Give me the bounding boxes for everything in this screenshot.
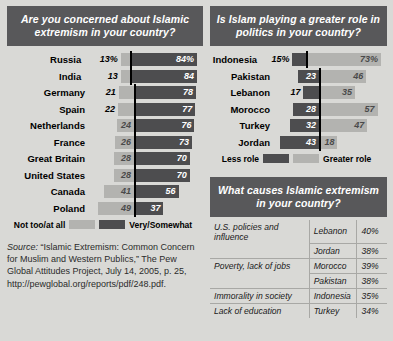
chart-role: Indonesia15%73%Pakistan2346Lebanon1735Mo… [210, 46, 387, 168]
table-row: Poverty, lack of jobsMorocco39% [210, 259, 387, 274]
chart-row: Germany2178 [9, 85, 197, 100]
bar-segment-left [292, 53, 306, 66]
country-label: Morocco [212, 104, 275, 115]
bar-value-left: 21 [103, 86, 119, 99]
bar-segment-right: 37 [134, 202, 163, 215]
bar-track: 2476 [90, 119, 197, 132]
cause-label: Lack of education [210, 304, 309, 319]
panel-title-role: Is Islam playing a greater role in polit… [210, 6, 387, 46]
chart-row: India1384 [9, 69, 197, 84]
cause-country: Indonesia [309, 289, 357, 304]
country-label: United States [9, 170, 90, 181]
bar-track: 13%84% [86, 53, 197, 66]
bar-segment-right: 73 [134, 136, 192, 149]
bar-segment-left [119, 86, 134, 99]
bar-value-left: 24 [118, 119, 134, 132]
chart-role-rows: Indonesia15%73%Pakistan2346Lebanon1735Mo… [212, 52, 381, 150]
zero-axis-line [134, 167, 136, 184]
zero-axis-line [134, 134, 136, 151]
cause-label [210, 244, 309, 259]
bar-segment-left: 24 [117, 119, 134, 132]
bar-value-right: 46 [350, 70, 366, 83]
chart-row: Indonesia15%73% [212, 52, 381, 67]
country-label: Spain [9, 104, 90, 115]
country-label: Germany [9, 87, 90, 98]
bar-track: 4937 [90, 202, 197, 215]
bar-segment-left: 32 [290, 119, 319, 132]
cause-label: Poverty, lack of jobs [210, 259, 309, 274]
country-label: Netherlands [9, 120, 90, 131]
bar-track: 2178 [90, 86, 197, 99]
country-label: Great Britain [9, 153, 90, 164]
table-row: U.S. policies and influenceLebanon40% [210, 220, 387, 244]
chart-row: Jordan4318 [212, 135, 381, 150]
bar-value-right: 47 [351, 119, 367, 132]
bar-value-left: 26 [118, 136, 134, 149]
panel-title-concern: Are you concerned about Islamic extremis… [7, 6, 203, 46]
chart-row: Netherlands2476 [9, 118, 197, 133]
bar-track: 1384 [86, 70, 197, 83]
bar-value-left: 23 [303, 70, 319, 83]
bar-value-left: 28 [118, 169, 134, 182]
bar-segment-right: 57 [319, 103, 378, 116]
country-label: Canada [9, 186, 90, 197]
bar-value-right: 56 [163, 185, 179, 198]
zero-axis-line [134, 117, 136, 134]
legend-label-very-somewhat: Very/Somewhat [129, 220, 192, 230]
bar-track: 2870 [90, 152, 197, 165]
bar-track: 4156 [90, 185, 197, 198]
bar-segment-right: 70 [134, 169, 190, 182]
zero-axis-line [130, 68, 132, 85]
bar-value-left: 28 [118, 152, 134, 165]
country-label: Jordan [212, 137, 275, 148]
chart-row: Spain2277 [9, 102, 197, 117]
bar-value-right: 78 [180, 86, 196, 99]
zero-axis-line [319, 101, 321, 118]
cause-percent: 38% [357, 274, 387, 289]
table-causes-wrap: U.S. policies and influenceLebanon40%Jor… [210, 217, 387, 319]
source-label: Source: [7, 242, 38, 252]
bar-track: 2673 [90, 136, 197, 149]
country-label: India [9, 71, 86, 82]
bar-segment-right: 78 [134, 86, 196, 99]
chart-row: Morocco2857 [212, 102, 381, 117]
bar-segment-right: 35 [319, 86, 355, 99]
bar-segment-left [121, 70, 130, 83]
bar-track: 2857 [275, 103, 381, 116]
zero-axis-line [134, 183, 136, 200]
zero-axis-line [134, 101, 136, 118]
table-row: Immorality in societyIndonesia35% [210, 289, 387, 304]
bar-value-right: 57 [361, 103, 377, 116]
bar-segment-left: 41 [104, 185, 134, 198]
legend-label-less-role: Less role [222, 154, 259, 164]
cause-percent: 40% [357, 220, 387, 244]
bar-segment-right: 73% [306, 53, 381, 66]
bar-value-right: 35 [339, 86, 355, 99]
table-row: Pakistan38% [210, 274, 387, 289]
bar-segment-left: 26 [115, 136, 134, 149]
cause-label: Immorality in society [210, 289, 309, 304]
bar-value-right: 76 [178, 119, 194, 132]
legend-swatch-dark [99, 220, 125, 229]
bar-track: 15%73% [262, 53, 381, 66]
chart-row: Poland4937 [9, 201, 197, 216]
bar-segment-right: 84 [130, 70, 197, 83]
bar-segment-left: 49 [98, 202, 134, 215]
bar-segment-right: 76 [134, 119, 194, 132]
legend-label-greater-role: Greater role [323, 154, 371, 164]
legend-concern: Not too/at all Very/Somewhat [9, 220, 197, 232]
country-label: Indonesia [212, 54, 262, 65]
zero-axis-line [319, 134, 321, 151]
bar-segment-left [121, 53, 130, 66]
legend-swatch-light [69, 220, 95, 229]
chart-row: Turkey3247 [212, 118, 381, 133]
zero-axis-line [134, 84, 136, 101]
legend-role: Less role Greater role [212, 154, 381, 166]
bar-segment-left: 28 [114, 152, 134, 165]
cause-percent: 39% [357, 259, 387, 274]
bar-value-right: 84% [173, 53, 197, 66]
country-label: Russia [9, 54, 86, 65]
chart-concern: Russia13%84%India1384Germany2178Spain227… [7, 46, 203, 234]
table-row: Lack of educationTurkey34% [210, 304, 387, 319]
zero-axis-line [130, 51, 132, 68]
